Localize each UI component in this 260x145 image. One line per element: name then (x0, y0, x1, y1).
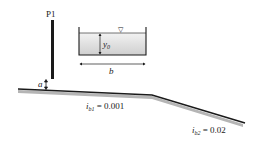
slope1-subscript: b1 (89, 106, 95, 112)
slope2-value: = 0.02 (203, 125, 226, 135)
slope-label-reach1: ib1 = 0.001 (86, 102, 124, 112)
slope2-subscript: b2 (195, 130, 201, 136)
slope1-value: = 0.001 (97, 101, 125, 111)
sluice-gate (51, 20, 54, 79)
depth-label: y0 (103, 40, 110, 50)
water-surface-symbol: ▽ (118, 27, 123, 34)
depth-subscript: 0 (107, 44, 110, 50)
channel-diagram (0, 0, 260, 145)
width-label: b (109, 67, 114, 76)
gate-opening-label: a (38, 80, 43, 89)
gate-opening-dimension (45, 80, 48, 90)
slope-label-reach2: ib2 = 0.02 (192, 126, 226, 136)
channel-bed-hatch (18, 90, 243, 127)
cross-section (79, 27, 146, 66)
gate-label: P1 (46, 10, 56, 19)
